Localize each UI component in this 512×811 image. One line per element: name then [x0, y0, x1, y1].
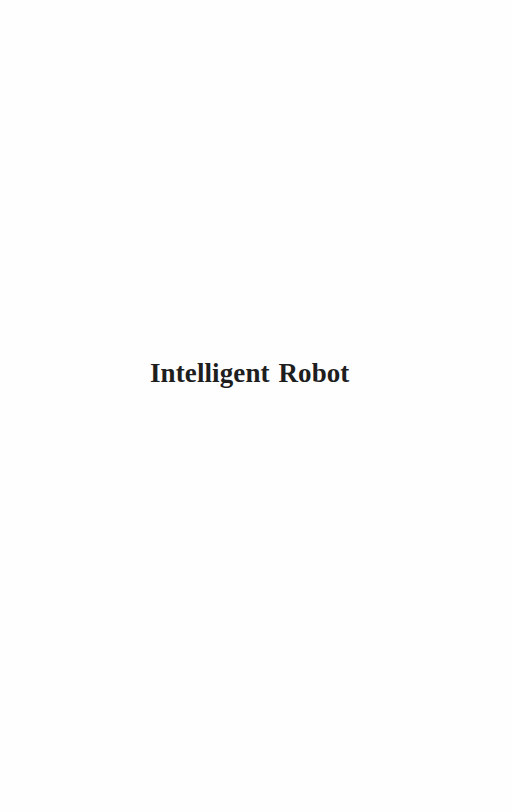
- page-title: Intelligent Robot: [150, 356, 349, 390]
- book-page: Intelligent Robot: [0, 0, 512, 811]
